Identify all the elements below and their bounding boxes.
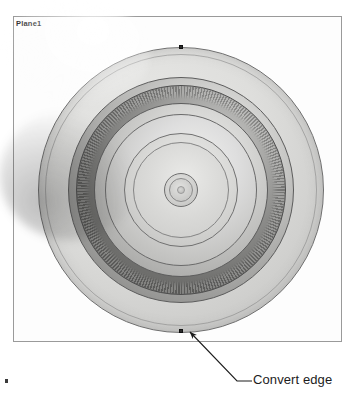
callout-leader-line <box>190 332 252 381</box>
stray-dot-artifact <box>5 379 8 383</box>
callout-leader <box>0 0 354 415</box>
callout-label: Convert edge <box>253 372 332 387</box>
